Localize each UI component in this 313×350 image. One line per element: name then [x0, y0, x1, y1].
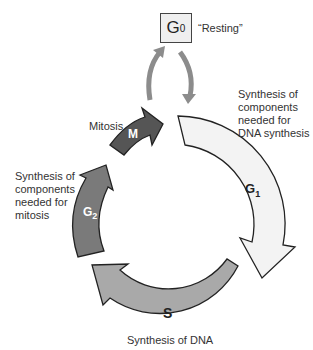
g1-phase-label: G1 — [245, 182, 260, 201]
g0-caption: “Resting” — [198, 22, 243, 35]
to-g0-arrow — [149, 52, 160, 100]
g1-phase-arrow — [178, 116, 295, 278]
g1-phase-description: Synthesis of components needed for DNA s… — [238, 88, 310, 140]
s-phase-description: Synthesis of DNA — [127, 334, 213, 347]
g0-subscript: 0 — [180, 23, 186, 34]
g0-phase-box: G0 — [160, 13, 192, 43]
g2-phase-label: G2 — [83, 206, 97, 223]
g0-letter: G — [167, 18, 180, 38]
m-phase-label: M — [128, 128, 138, 141]
cell-cycle-diagram: G0 “Resting” M G1 S G2 Mitosis Synthesis… — [0, 0, 313, 350]
g2-phase-description: Synthesis of components needed for mitos… — [15, 170, 75, 222]
s-phase-label: S — [163, 307, 172, 320]
from-g0-arrowhead — [182, 94, 196, 104]
m-phase-description: Mitosis — [89, 120, 123, 133]
from-g0-arrow — [180, 52, 191, 96]
